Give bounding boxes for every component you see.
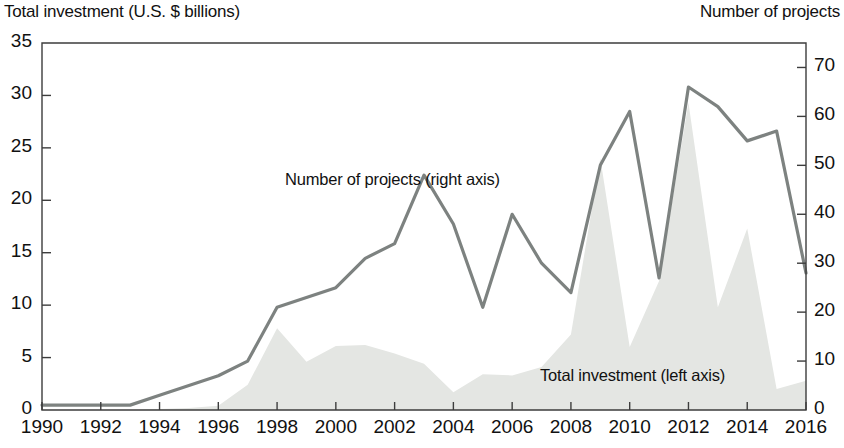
x-axis-tick-label: 1990 <box>12 416 72 438</box>
area-series-investment <box>42 103 806 410</box>
series-label-investment: Total investment (left axis) <box>540 366 725 385</box>
right-axis-title: Number of projects <box>700 2 840 22</box>
right-axis-tick-label: 30 <box>814 250 844 272</box>
x-axis-tick-label: 2008 <box>541 416 601 438</box>
left-axis-tick-label: 15 <box>0 240 32 262</box>
right-axis-tick-label: 50 <box>814 152 844 174</box>
right-axis-tick-label: 10 <box>814 348 844 370</box>
left-axis-title: Total investment (U.S. $ billions) <box>4 2 240 22</box>
x-axis-tick-label: 2002 <box>365 416 425 438</box>
left-axis-tick-label: 10 <box>0 292 32 314</box>
x-axis-tick-label: 2012 <box>658 416 718 438</box>
chart-container: Total investment (U.S. $ billions) Numbe… <box>0 0 844 448</box>
x-axis-tick-label: 1994 <box>130 416 190 438</box>
series-label-projects: Number of projects (right axis) <box>285 170 500 189</box>
right-axis-tick-label: 70 <box>814 54 844 76</box>
x-axis-tick-label: 2004 <box>423 416 483 438</box>
investment-area-path <box>42 103 806 410</box>
x-axis-tick-label: 1998 <box>247 416 307 438</box>
x-axis-tick-label: 1992 <box>71 416 131 438</box>
x-axis-tick-label: 1996 <box>188 416 248 438</box>
left-axis-tick-label: 35 <box>0 30 32 52</box>
left-axis-tick-label: 20 <box>0 187 32 209</box>
right-axis-tick-label: 60 <box>814 103 844 125</box>
left-axis-tick-label: 5 <box>0 345 32 367</box>
x-axis-tick-label: 2000 <box>306 416 366 438</box>
left-axis-tick-label: 25 <box>0 135 32 157</box>
right-axis-tick-label: 40 <box>814 201 844 223</box>
x-axis-tick-label: 2014 <box>717 416 777 438</box>
x-axis-tick-label: 2010 <box>600 416 660 438</box>
right-axis-tick-label: 20 <box>814 299 844 321</box>
x-axis-tick-label: 2016 <box>776 416 836 438</box>
left-axis-tick-label: 30 <box>0 82 32 104</box>
x-axis-tick-label: 2006 <box>482 416 542 438</box>
